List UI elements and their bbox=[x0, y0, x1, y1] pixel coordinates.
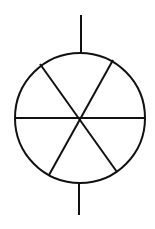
six-sector-circle-symbol bbox=[0, 0, 155, 229]
diagram-canvas bbox=[0, 0, 155, 229]
